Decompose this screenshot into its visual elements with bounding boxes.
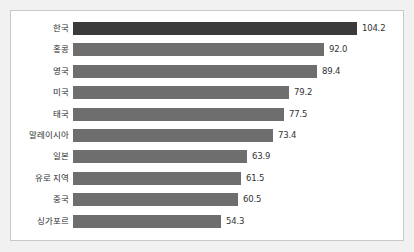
bar-track [73,43,324,56]
bar-track [73,22,357,35]
bar [73,150,247,163]
bar-track [73,65,317,78]
bar-value-label: 79.2 [294,86,312,99]
bar [73,172,241,185]
chart-panel: 한국104.2홍콩92.0영국89.4미국79.2태국77.5말레이시아73.4… [10,10,404,241]
bar-category-label: 태국 [11,108,69,121]
bar-row: 미국79.2 [11,86,403,99]
bar-value-label: 61.5 [246,172,264,185]
bar-value-label: 89.4 [322,65,340,78]
bar-value-label: 60.5 [243,193,261,206]
bar-value-label: 77.5 [289,108,307,121]
bar-category-label: 말레이시아 [11,129,69,142]
bar-value-label: 104.2 [362,22,385,35]
bar-row: 일본63.9 [11,150,403,163]
bar-row: 한국104.2 [11,22,403,35]
bar-value-label: 54.3 [226,215,244,228]
bar [73,43,324,56]
bar-value-label: 63.9 [252,150,270,163]
bar [73,129,273,142]
bar-track [73,108,284,121]
bar-chart-plot-area: 한국104.2홍콩92.0영국89.4미국79.2태국77.5말레이시아73.4… [11,11,403,240]
bar-row: 말레이시아73.4 [11,129,403,142]
bar-track [73,172,241,185]
bar-category-label: 한국 [11,22,69,35]
bar-category-label: 홍콩 [11,43,69,56]
bar-row: 유로 지역61.5 [11,172,403,185]
bar [73,65,317,78]
bar-row: 싱가포르54.3 [11,215,403,228]
bar-highlighted [73,22,357,35]
bar-track [73,150,247,163]
bar-category-label: 일본 [11,150,69,163]
bar-track [73,215,221,228]
bar-track [73,86,289,99]
bar [73,108,284,121]
bar [73,193,238,206]
bar-track [73,129,273,142]
bar [73,215,221,228]
bar-category-label: 싱가포르 [11,215,69,228]
bar-row: 태국77.5 [11,108,403,121]
bar-row: 영국89.4 [11,65,403,78]
chart-frame: 한국104.2홍콩92.0영국89.4미국79.2태국77.5말레이시아73.4… [0,0,414,252]
bar [73,86,289,99]
bar-category-label: 중국 [11,193,69,206]
bar-category-label: 영국 [11,65,69,78]
bar-value-label: 92.0 [329,43,347,56]
bar-value-label: 73.4 [278,129,296,142]
bar-track [73,193,238,206]
bar-category-label: 미국 [11,86,69,99]
bar-category-label: 유로 지역 [11,172,69,185]
bar-row: 중국60.5 [11,193,403,206]
bar-row: 홍콩92.0 [11,43,403,56]
